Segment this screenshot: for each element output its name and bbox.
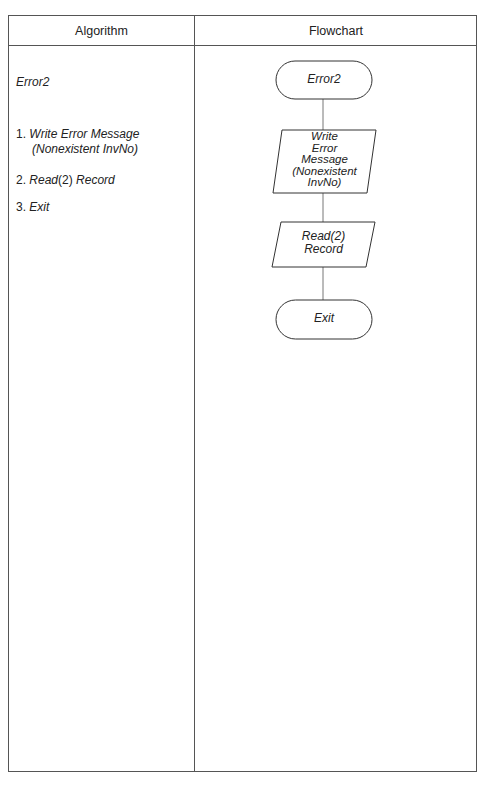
label-line: Record bbox=[272, 243, 375, 256]
terminator-start-label: Error2 bbox=[276, 74, 372, 86]
flowchart-diagram bbox=[0, 0, 488, 786]
io-write-label: Write Error Message (Nonexistent InvNo) bbox=[273, 131, 376, 189]
terminator-exit-label: Exit bbox=[276, 313, 372, 325]
io-read-label: Read(2) Record bbox=[272, 230, 375, 256]
label-line: InvNo) bbox=[273, 177, 376, 189]
label-line: Write bbox=[273, 131, 376, 143]
label-line: Message bbox=[273, 154, 376, 166]
